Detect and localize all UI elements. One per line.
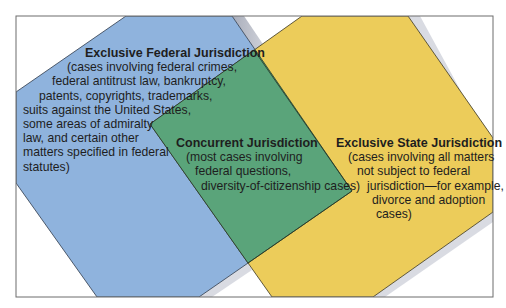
concurrent-line: diversity-of-citizenship cases)	[160, 179, 360, 193]
federal-line: some areas of admiralty	[16, 117, 256, 131]
federal-line: suits against the United States,	[16, 103, 256, 117]
state-label: Exclusive State Jurisdiction (cases invo…	[336, 136, 496, 221]
concurrent-title: Concurrent Jurisdiction	[160, 136, 360, 150]
concurrent-label: Concurrent Jurisdiction (most cases invo…	[160, 136, 360, 193]
federal-line: patents, copyrights, trademarks,	[16, 89, 256, 103]
state-title: Exclusive State Jurisdiction	[336, 136, 496, 150]
state-line: (cases involving all matters	[336, 150, 496, 164]
state-line: not subject to federal	[336, 164, 496, 178]
state-line: cases)	[336, 207, 496, 221]
federal-line: (cases involving federal crimes,	[16, 60, 256, 74]
state-line: divorce and adoption	[336, 193, 496, 207]
state-line: jurisdiction—for example,	[336, 179, 496, 193]
concurrent-line: (most cases involving	[160, 150, 360, 164]
concurrent-line: federal questions,	[160, 164, 360, 178]
federal-title: Exclusive Federal Jurisdiction	[16, 46, 256, 60]
federal-line: federal antitrust law, bankruptcy,	[16, 74, 256, 88]
